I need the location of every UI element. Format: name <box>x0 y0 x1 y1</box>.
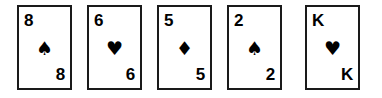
spade-icon: ♠ <box>246 38 263 57</box>
card-rank-top-left: 8 <box>24 12 33 29</box>
card-rank-bottom-right: 8 <box>56 66 65 83</box>
card-rank-bottom-right: 2 <box>266 66 275 83</box>
heart-icon: ♥ <box>106 38 123 57</box>
card-rank-bottom-right: 5 <box>196 66 205 83</box>
heart-icon: ♥ <box>324 38 341 57</box>
card-rank-bottom-right: K <box>341 66 353 83</box>
card-rank-top-left: 6 <box>94 12 103 29</box>
card-rank-top-left: 5 <box>164 12 173 29</box>
playing-card-3[interactable]: 5 ♦ 5 <box>157 5 212 90</box>
spade-icon: ♠ <box>36 38 53 57</box>
card-rank-bottom-right: 6 <box>126 66 135 83</box>
playing-card-1[interactable]: 8 ♠ 8 <box>17 5 72 90</box>
card-hand: 8 ♠ 8 6 ♥ 6 5 ♦ 5 2 ♠ 2 K ♥ K <box>0 0 382 98</box>
card-rank-top-left: 2 <box>234 12 243 29</box>
playing-card-2[interactable]: 6 ♥ 6 <box>87 5 142 90</box>
playing-card-5[interactable]: K ♥ K <box>305 5 360 90</box>
card-rank-top-left: K <box>312 12 324 29</box>
diamond-icon: ♦ <box>176 38 193 57</box>
playing-card-4[interactable]: 2 ♠ 2 <box>227 5 282 90</box>
